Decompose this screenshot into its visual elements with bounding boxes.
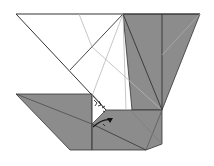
origami-diagram — [0, 0, 214, 166]
gray-base — [92, 110, 162, 150]
gray-column-right — [123, 14, 200, 110]
gray-flap-left — [16, 94, 92, 150]
